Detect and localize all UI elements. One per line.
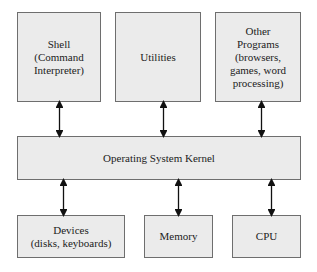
connection-arrows [0,0,317,272]
